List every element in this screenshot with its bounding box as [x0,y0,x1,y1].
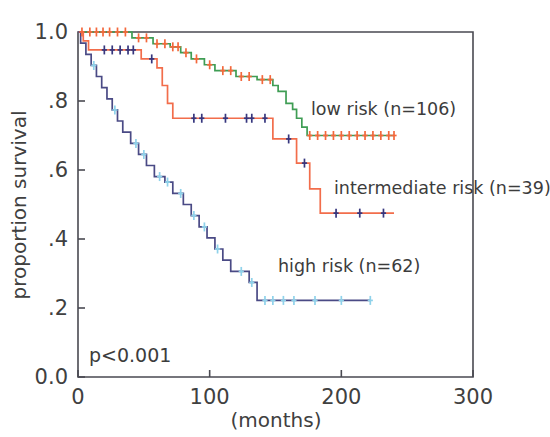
y-tick-label: .2 [48,296,68,320]
series-label-high-risk: high risk (n=62) [278,256,420,276]
plot-frame [78,32,473,377]
curve-low-risk [78,32,394,136]
y-axis-title: proportion survival [7,111,31,300]
y-tick-label: .4 [48,227,68,251]
y-tick-label: .6 [48,158,68,182]
y-tick-label: 1.0 [35,20,68,44]
y-axis-ticks [78,32,85,377]
kaplan-meier-figure: 0100200300 0.0.2.4.6.81.0 (months) propo… [0,0,550,437]
p-value-annotation: p<0.001 [89,344,171,366]
x-tick-label: 100 [190,385,230,409]
x-axis-tick-labels: 0100200300 [71,385,493,409]
y-tick-label: 0.0 [35,365,68,389]
x-tick-label: 200 [321,385,361,409]
series-label-low-risk: low risk (n=106) [311,99,456,119]
y-axis-tick-labels: 0.0.2.4.6.81.0 [35,20,68,389]
x-tick-label: 0 [71,385,84,409]
x-axis-ticks [78,370,473,377]
y-tick-label: .8 [48,89,68,113]
x-axis-title: (months) [231,408,322,432]
series-label-intermediate-risk: intermediate risk (n=39) [334,178,550,198]
survival-chart-canvas: 0100200300 0.0.2.4.6.81.0 (months) propo… [0,0,550,437]
x-tick-label: 300 [453,385,493,409]
